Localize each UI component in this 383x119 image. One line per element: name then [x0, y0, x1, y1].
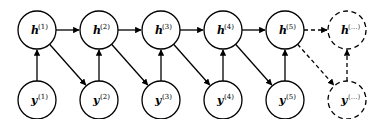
- node-y1: y(1): [18, 81, 56, 119]
- node-superscript: (2): [100, 93, 110, 101]
- node-y2: y(2): [80, 81, 118, 119]
- node-yn: y(...): [328, 81, 366, 119]
- node-h1: h(1): [18, 11, 56, 49]
- node-superscript: (4): [224, 23, 234, 31]
- node-superscript: (...): [348, 93, 360, 101]
- edge-h2-to-y3: [112, 44, 148, 85]
- edge-h4-to-y5: [236, 44, 272, 85]
- node-y5: y(5): [266, 81, 304, 119]
- node-superscript: (3): [162, 23, 172, 31]
- node-h3: h(3): [142, 11, 180, 49]
- node-superscript: (1): [38, 93, 48, 101]
- node-h5: h(5): [266, 11, 304, 49]
- edge-h5-to-yn: [298, 44, 334, 85]
- node-superscript: (...): [348, 23, 360, 31]
- node-superscript: (5): [286, 93, 296, 101]
- node-superscript: (5): [286, 23, 296, 31]
- node-y4: y(4): [204, 81, 242, 119]
- node-superscript: (2): [100, 23, 110, 31]
- node-hn: h(...): [328, 11, 366, 49]
- node-h4: h(4): [204, 11, 242, 49]
- node-superscript: (4): [224, 93, 234, 101]
- node-h2: h(2): [80, 11, 118, 49]
- rnn-graphical-model: h(1)h(2)h(3)h(4)h(5)h(...)y(1)y(2)y(3)y(…: [0, 0, 383, 119]
- edge-h3-to-y4: [174, 44, 210, 85]
- node-y3: y(3): [142, 81, 180, 119]
- node-superscript: (1): [38, 23, 48, 31]
- edge-h1-to-y2: [50, 44, 86, 85]
- node-superscript: (3): [162, 93, 172, 101]
